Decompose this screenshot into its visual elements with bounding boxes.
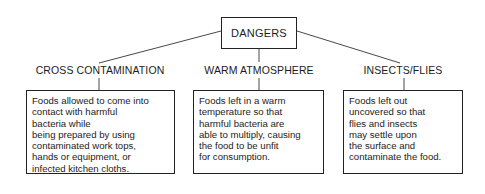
description-line: being prepared by using bbox=[32, 129, 169, 140]
root-node-label: DANGERS bbox=[231, 27, 287, 39]
description-line: Foods allowed to come into bbox=[32, 95, 169, 106]
description-line: bacteria while bbox=[32, 118, 169, 129]
description-box-warm-atmosphere: Foods left in a warm temperature so that… bbox=[193, 90, 324, 174]
description-line: the food to be unfit bbox=[199, 140, 318, 151]
description-line: uncovered so that bbox=[349, 106, 457, 117]
description-line: may settle upon bbox=[349, 129, 457, 140]
description-line: infected kitchen cloths. bbox=[32, 163, 169, 174]
description-line: contaminate the food. bbox=[349, 151, 457, 162]
connector-root-to-insects-flies bbox=[297, 31, 400, 63]
description-line: Foods left out bbox=[349, 95, 457, 106]
branch-heading-cross-contamination: CROSS CONTAMINATION bbox=[36, 64, 165, 76]
description-line: contaminated work tops, bbox=[32, 140, 169, 151]
description-line: able to multiply, causing bbox=[199, 129, 318, 140]
description-line: flies and insects bbox=[349, 118, 457, 129]
root-node-dangers: DANGERS bbox=[221, 17, 297, 49]
description-line: Foods left in a warm bbox=[199, 95, 318, 106]
description-line: harmful bacteria are bbox=[199, 118, 318, 129]
branch-heading-insects-flies: INSECTS/FLIES bbox=[364, 64, 443, 76]
description-box-insects-flies: Foods left out uncovered so that flies a… bbox=[343, 90, 463, 174]
connector-root-to-cross-contamination bbox=[99, 31, 221, 63]
description-box-cross-contamination: Foods allowed to come into contact with … bbox=[26, 90, 175, 174]
description-line: for consumption. bbox=[199, 151, 318, 162]
description-line: temperature so that bbox=[199, 106, 318, 117]
description-line: hands or equipment, or bbox=[32, 151, 169, 162]
description-line: contact with harmful bbox=[32, 106, 169, 117]
description-line: the surface and bbox=[349, 140, 457, 151]
branch-heading-warm-atmosphere: WARM ATMOSPHERE bbox=[204, 64, 313, 76]
